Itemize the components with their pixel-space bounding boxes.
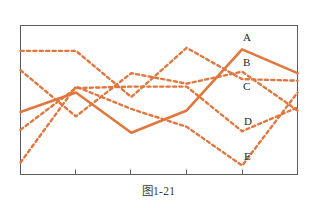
chart-background [0, 0, 317, 208]
series-label-c: C [243, 81, 250, 92]
figure-caption: 图1-21 [0, 182, 317, 198]
series-label-b: B [243, 57, 250, 68]
line-chart [0, 0, 317, 208]
series-label-e: E [244, 151, 251, 162]
series-label-a: A [243, 32, 251, 43]
series-label-d: D [244, 116, 252, 127]
figure-container: A B C D E 图1-21 [0, 0, 317, 208]
